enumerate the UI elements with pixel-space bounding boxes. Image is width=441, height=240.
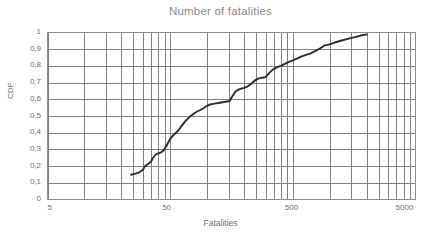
cdf-curve — [131, 34, 367, 174]
cdf-chart: Number of fatalities CDF Fatalities 00,1… — [0, 0, 441, 240]
major-horizontal-gridlines — [48, 50, 416, 184]
plot-area — [0, 0, 441, 240]
